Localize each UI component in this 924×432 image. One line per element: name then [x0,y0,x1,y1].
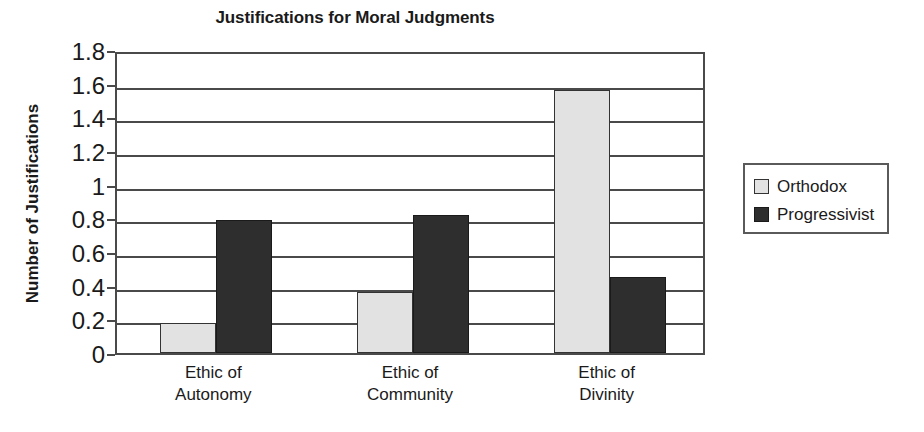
gridline [117,155,703,157]
legend-item-progressivist[interactable]: Progressivist [754,200,887,228]
y-axis-tick-label: 0.6 [72,242,105,266]
bar-progressivist-2[interactable] [610,277,666,353]
x-axis-label-line: Autonomy [115,384,312,406]
y-axis-tick-mark [107,118,115,120]
x-axis-label-line: Divinity [508,384,705,406]
chart-title: Justifications for Moral Judgments [0,8,710,28]
x-axis-label-line: Ethic of [312,362,509,384]
gridline [117,222,703,224]
legend-swatch-progressivist [754,207,769,222]
bar-progressivist-1[interactable] [413,215,469,353]
gridline [117,256,703,258]
y-axis-tick-label: 1.8 [72,40,105,64]
x-axis-label-1: Ethic ofCommunity [312,362,509,406]
gridline [117,88,703,90]
y-axis-tick-mark [107,354,115,356]
y-axis-tick-mark [107,152,115,154]
y-axis-tick-label: 1.6 [72,74,105,98]
plot-area [115,52,705,355]
gridline [117,189,703,191]
y-axis-tick-mark [107,320,115,322]
bar-progressivist-0[interactable] [216,220,272,353]
y-axis-tick-mark [107,253,115,255]
y-axis-tick-label: 0.8 [72,208,105,232]
legend-label-progressivist: Progressivist [777,206,874,223]
x-axis-label-2: Ethic ofDivinity [508,362,705,406]
bar-orthodox-1[interactable] [357,292,413,353]
y-axis-title: Number of Justifications [20,52,46,355]
y-axis-tick-label: 1 [92,175,105,199]
x-axis-label-line: Community [312,384,509,406]
legend-item-orthodox[interactable]: Orthodox [754,172,887,200]
x-axis-label-0: Ethic ofAutonomy [115,362,312,406]
y-axis-tick-mark [107,85,115,87]
x-axis-category-labels: Ethic ofAutonomyEthic ofCommunityEthic o… [115,362,705,422]
chart-figure: Justifications for Moral Judgments Numbe… [0,0,924,432]
bar-orthodox-0[interactable] [160,323,216,353]
gridline [117,121,703,123]
y-axis-tick-label: 1.4 [72,107,105,131]
x-axis-label-line: Ethic of [508,362,705,384]
chart-legend: Orthodox Progressivist [743,163,889,234]
y-axis-tick-label: 0.2 [72,309,105,333]
y-axis-tick-mark [107,186,115,188]
y-axis-tick-label: 1.2 [72,141,105,165]
y-axis-tick-mark [107,219,115,221]
legend-swatch-orthodox [754,179,769,194]
legend-label-orthodox: Orthodox [777,178,847,195]
y-axis-tick-label: 0.4 [72,276,105,300]
y-axis-tick-labels: 1.81.61.41.210.80.60.40.20 [47,52,115,355]
y-axis-tick-label: 0 [92,343,105,367]
bar-orthodox-2[interactable] [554,90,610,353]
x-axis-label-line: Ethic of [115,362,312,384]
y-axis-tick-mark [107,287,115,289]
y-axis-tick-mark [107,51,115,53]
